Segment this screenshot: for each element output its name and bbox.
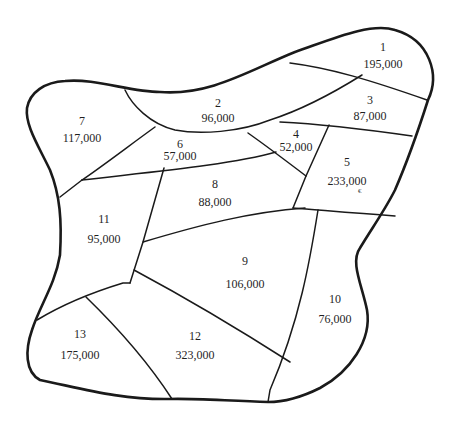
region-13-number: 13 [74,328,86,340]
region-8-value: 88,000 [199,196,232,208]
region-3-value: 87,000 [354,110,387,122]
region-3-number: 3 [367,94,373,106]
region-2-number: 2 [215,97,221,109]
border-9-10 [268,210,318,402]
region-12-value: 323,000 [176,349,215,361]
border-7-11 [60,180,82,197]
border-8-9 [143,208,305,242]
region-7-value: 117,000 [63,132,102,144]
region-10-number: 10 [329,293,341,305]
region-9-value: 106,000 [226,278,265,290]
region-4-value: 52,000 [280,141,313,153]
border-5-bottom [293,208,395,216]
border-3-5 [280,122,412,136]
stray-mark: € [358,187,362,195]
border-2-3 [125,75,362,132]
region-4-number: 4 [293,128,299,140]
border-8-11 [130,168,164,283]
region-7-number: 7 [79,115,85,127]
region-10-value: 76,000 [319,313,352,325]
region-5-number: 5 [344,156,350,168]
region-13-value: 175,000 [61,349,100,361]
region-11-value: 95,000 [88,233,121,245]
region-1-number: 1 [380,41,386,53]
region-9-number: 9 [242,255,248,267]
border-1-3 [290,63,427,100]
region-11-number: 11 [98,213,110,225]
region-5-value: 233,000 [328,175,367,187]
region-6-value: 57,000 [164,150,197,162]
region-12-number: 12 [189,330,201,342]
region-2-value: 96,000 [202,112,235,124]
region-1-value: 195,000 [364,58,403,70]
region-8-number: 8 [212,178,218,190]
